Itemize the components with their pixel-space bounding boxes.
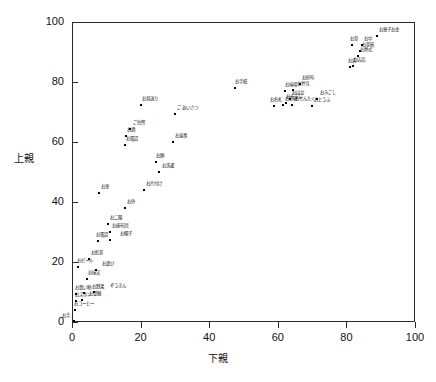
data-point xyxy=(95,269,97,271)
data-point xyxy=(292,89,294,91)
data-point-label: お名札 xyxy=(270,97,282,102)
data-point xyxy=(124,144,126,146)
y-tick-mark xyxy=(72,202,78,203)
data-point xyxy=(98,192,100,194)
data-point-label: お遊び xyxy=(102,261,114,266)
data-point-label: お洗濯 xyxy=(162,163,174,168)
x-tick-label: 80 xyxy=(326,332,366,343)
y-tick-mark xyxy=(72,22,78,23)
data-point-label: お砂布 xyxy=(302,75,314,80)
data-point-label: お店品 xyxy=(353,57,365,62)
x-tick-mark xyxy=(209,322,210,328)
y-tick-label: 40 xyxy=(20,196,64,207)
y-tick-label: 100 xyxy=(20,16,64,27)
data-point xyxy=(172,141,174,143)
data-point xyxy=(109,239,111,241)
data-point xyxy=(77,266,79,268)
data-point xyxy=(97,240,99,242)
y-axis-title: 上親 xyxy=(14,150,34,165)
data-point-label: ご あいさつ xyxy=(177,105,198,110)
data-point-label: ご住所 xyxy=(133,120,145,125)
data-point-label: お菓子お金 xyxy=(379,27,399,32)
data-point xyxy=(359,50,361,52)
data-point xyxy=(140,104,142,106)
data-point-label: おビール xyxy=(77,258,93,263)
data-point xyxy=(234,87,236,89)
x-tick-mark xyxy=(278,322,279,328)
data-point xyxy=(73,320,75,322)
y-tick-mark xyxy=(72,82,78,83)
data-point-label: お味噌 xyxy=(285,82,297,87)
data-point-label: お茶碗 xyxy=(362,42,374,47)
data-point xyxy=(158,171,160,173)
x-tick-label: 20 xyxy=(121,332,161,343)
data-point xyxy=(311,105,313,107)
data-point xyxy=(349,66,351,68)
data-point xyxy=(125,135,127,137)
x-tick-mark xyxy=(72,322,73,328)
data-point-label: お草 xyxy=(350,36,358,41)
data-point-label: お顔 xyxy=(156,153,164,158)
x-tick-label: 0 xyxy=(52,332,92,343)
data-point xyxy=(124,207,126,209)
data-point xyxy=(86,278,88,280)
data-point xyxy=(75,293,77,295)
data-point-label: お見送り xyxy=(142,96,158,101)
data-point xyxy=(351,44,353,46)
data-point xyxy=(361,44,363,46)
data-point xyxy=(107,223,109,225)
y-tick-label: 20 xyxy=(20,256,64,267)
data-point-label: お買い物 xyxy=(75,285,91,290)
y-tick-label: 0 xyxy=(20,316,64,327)
data-point xyxy=(285,102,287,104)
x-axis-title: 下親 xyxy=(0,350,436,365)
scatter-plot-figure: 020406080100 020406080100 上親 下親 お手おコーヒーお… xyxy=(0,0,436,382)
data-point xyxy=(316,98,318,100)
data-point-label: お中 xyxy=(364,36,372,41)
data-point xyxy=(83,292,85,294)
data-point-label: お受験 xyxy=(89,291,101,296)
x-tick-label: 40 xyxy=(189,332,229,343)
data-point-label: おコーヒー xyxy=(74,301,94,306)
data-point xyxy=(289,98,291,100)
data-point xyxy=(174,113,176,115)
data-point-label: お座布団 xyxy=(112,223,128,228)
data-point xyxy=(299,83,301,85)
data-point-label: おせんたく xyxy=(295,96,315,101)
data-point-label: お葬式 xyxy=(360,47,372,52)
data-point-label: お電話 xyxy=(96,232,108,237)
data-point xyxy=(376,35,378,37)
data-point-label: お手紙 xyxy=(235,79,247,84)
data-point xyxy=(81,299,83,301)
data-point-label: お帽子 xyxy=(120,231,132,236)
data-point xyxy=(155,161,157,163)
data-point-label: お手 xyxy=(62,313,70,318)
data-point xyxy=(273,105,275,107)
data-point-label: お片付け xyxy=(146,181,162,186)
data-point-label: ぞうきん xyxy=(110,283,126,288)
x-tick-label: 100 xyxy=(395,332,435,343)
data-point-label: おみこし xyxy=(320,90,336,95)
x-tick-mark xyxy=(415,322,416,328)
data-point xyxy=(129,128,131,130)
data-point xyxy=(75,300,77,302)
data-point-label: お車 xyxy=(101,184,109,189)
data-point xyxy=(93,291,95,293)
data-point-label: お二階 xyxy=(110,215,122,220)
y-tick-label: 60 xyxy=(20,136,64,147)
data-point-label: お電話 xyxy=(126,136,138,141)
data-point-label: お返事 xyxy=(175,133,187,138)
data-point xyxy=(291,104,293,106)
data-point xyxy=(143,189,145,191)
data-point xyxy=(352,65,354,67)
data-point-label: お紅茶 xyxy=(91,250,103,255)
x-tick-mark xyxy=(346,322,347,328)
data-point xyxy=(284,90,286,92)
data-point xyxy=(109,231,111,233)
x-tick-mark xyxy=(141,322,142,328)
data-point-label: お外 xyxy=(127,199,135,204)
data-point xyxy=(282,104,284,106)
plot-area-frame xyxy=(72,22,415,322)
x-tick-label: 60 xyxy=(258,332,298,343)
data-point xyxy=(74,309,76,311)
